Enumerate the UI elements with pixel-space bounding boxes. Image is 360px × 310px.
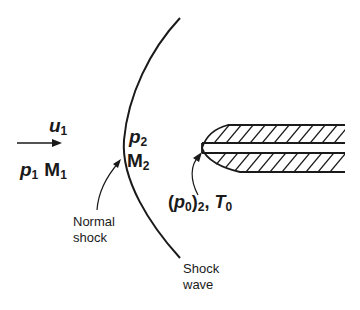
t0-base: T: [214, 192, 225, 212]
label-p1-m1: p1M1: [20, 159, 67, 182]
normal-shock-line1: Normal: [73, 214, 115, 230]
normal-shock-pointer-icon: [97, 162, 119, 210]
label-m2: M2: [127, 150, 150, 173]
flow-arrow-icon: [17, 139, 62, 147]
m2-sub: 2: [143, 159, 150, 173]
diagram-canvas: [0, 0, 360, 310]
p2-base: p: [129, 126, 141, 147]
m1-base: M: [44, 159, 60, 180]
p2-sub: 2: [141, 135, 148, 149]
p1-base: p: [20, 159, 32, 180]
m1-sub: 1: [60, 168, 67, 182]
u1-sub: 1: [61, 124, 68, 138]
normal-shock-line2: shock: [73, 230, 115, 246]
shock-wave-line2: wave: [183, 277, 219, 293]
normal-shock-arrowhead-icon: [113, 159, 121, 168]
label-normal-shock: Normal shock: [73, 214, 115, 246]
m2-base: M: [127, 150, 143, 171]
separator: ,: [204, 192, 214, 212]
u1-base: u: [49, 115, 61, 136]
t0-sub: 0: [225, 200, 232, 214]
label-u1: u1: [49, 115, 67, 138]
stagnation-arrowhead-icon: [193, 152, 202, 162]
p0-base: p: [174, 192, 185, 212]
stagnation-pointer-icon: [192, 156, 199, 195]
label-p2: p2: [129, 126, 147, 149]
label-stagnation: (p0)2, T0: [168, 192, 232, 214]
p1-sub: 1: [32, 168, 39, 182]
pitot-probe: [202, 118, 355, 178]
label-shock-wave: Shock wave: [183, 261, 219, 293]
shock-wave-line1: Shock: [183, 261, 219, 277]
p0-sub: 0: [185, 200, 192, 214]
